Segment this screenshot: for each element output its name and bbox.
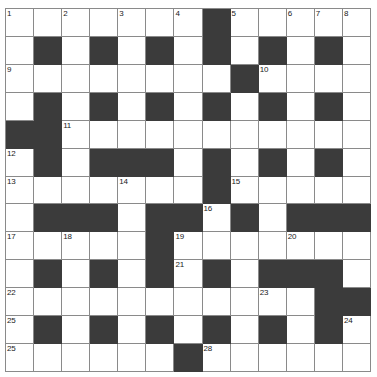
crossword-cell[interactable] — [118, 288, 146, 316]
crossword-cell[interactable] — [174, 149, 202, 177]
crossword-cell[interactable]: 2 — [62, 9, 90, 37]
crossword-cell[interactable] — [62, 316, 90, 344]
crossword-cell[interactable] — [231, 232, 259, 260]
crossword-cell[interactable] — [6, 204, 34, 232]
crossword-cell[interactable] — [203, 288, 231, 316]
crossword-cell[interactable] — [174, 121, 202, 149]
crossword-cell[interactable]: 16 — [203, 204, 231, 232]
crossword-cell[interactable] — [118, 316, 146, 344]
crossword-cell[interactable] — [315, 121, 343, 149]
crossword-cell[interactable] — [118, 204, 146, 232]
crossword-cell[interactable]: 25 — [6, 344, 34, 372]
crossword-cell[interactable] — [146, 288, 174, 316]
crossword-cell[interactable] — [174, 177, 202, 205]
crossword-cell[interactable] — [118, 232, 146, 260]
crossword-cell[interactable] — [287, 65, 315, 93]
crossword-cell[interactable] — [118, 93, 146, 121]
crossword-cell[interactable] — [174, 37, 202, 65]
crossword-cell[interactable] — [287, 37, 315, 65]
crossword-cell[interactable] — [6, 93, 34, 121]
crossword-cell[interactable]: 24 — [343, 316, 371, 344]
crossword-cell[interactable]: 19 — [174, 232, 202, 260]
crossword-cell[interactable]: 23 — [259, 288, 287, 316]
crossword-cell[interactable] — [343, 121, 371, 149]
crossword-cell[interactable] — [231, 149, 259, 177]
crossword-cell[interactable] — [231, 316, 259, 344]
crossword-cell[interactable] — [174, 65, 202, 93]
crossword-cell[interactable] — [231, 260, 259, 288]
crossword-cell[interactable] — [259, 344, 287, 372]
crossword-cell[interactable] — [6, 37, 34, 65]
crossword-cell[interactable] — [90, 65, 118, 93]
crossword-grid[interactable]: 1234567891011121314151617181920212223252… — [5, 8, 371, 372]
crossword-cell[interactable]: 9 — [6, 65, 34, 93]
crossword-cell[interactable] — [231, 121, 259, 149]
crossword-cell[interactable] — [315, 344, 343, 372]
crossword-cell[interactable] — [287, 149, 315, 177]
crossword-cell[interactable] — [34, 9, 62, 37]
crossword-cell[interactable] — [259, 232, 287, 260]
crossword-cell[interactable] — [315, 177, 343, 205]
crossword-cell[interactable]: 18 — [62, 232, 90, 260]
crossword-cell[interactable]: 8 — [343, 9, 371, 37]
crossword-cell[interactable] — [259, 121, 287, 149]
crossword-cell[interactable] — [90, 121, 118, 149]
crossword-cell[interactable] — [203, 121, 231, 149]
crossword-cell[interactable] — [259, 177, 287, 205]
crossword-cell[interactable] — [174, 316, 202, 344]
crossword-cell[interactable] — [90, 288, 118, 316]
crossword-cell[interactable] — [343, 65, 371, 93]
crossword-cell[interactable]: 4 — [174, 9, 202, 37]
crossword-cell[interactable]: 6 — [287, 9, 315, 37]
crossword-cell[interactable] — [34, 344, 62, 372]
crossword-cell[interactable] — [259, 204, 287, 232]
crossword-cell[interactable] — [287, 316, 315, 344]
crossword-cell[interactable] — [287, 121, 315, 149]
crossword-cell[interactable] — [146, 344, 174, 372]
crossword-cell[interactable] — [6, 260, 34, 288]
crossword-cell[interactable] — [62, 149, 90, 177]
crossword-cell[interactable] — [174, 93, 202, 121]
crossword-cell[interactable] — [231, 288, 259, 316]
crossword-cell[interactable] — [259, 9, 287, 37]
crossword-cell[interactable]: 10 — [259, 65, 287, 93]
crossword-cell[interactable] — [34, 288, 62, 316]
crossword-cell[interactable] — [118, 260, 146, 288]
crossword-cell[interactable] — [34, 65, 62, 93]
crossword-cell[interactable] — [62, 37, 90, 65]
crossword-cell[interactable]: 20 — [287, 232, 315, 260]
crossword-cell[interactable] — [90, 177, 118, 205]
crossword-cell[interactable] — [34, 232, 62, 260]
crossword-cell[interactable] — [343, 149, 371, 177]
crossword-cell[interactable] — [90, 232, 118, 260]
crossword-cell[interactable] — [62, 93, 90, 121]
crossword-cell[interactable] — [146, 65, 174, 93]
crossword-cell[interactable] — [343, 344, 371, 372]
crossword-cell[interactable] — [34, 177, 62, 205]
crossword-cell[interactable] — [343, 177, 371, 205]
crossword-cell[interactable] — [146, 9, 174, 37]
crossword-cell[interactable] — [343, 37, 371, 65]
crossword-cell[interactable]: 13 — [6, 177, 34, 205]
crossword-cell[interactable]: 15 — [231, 177, 259, 205]
crossword-cell[interactable] — [343, 93, 371, 121]
crossword-cell[interactable] — [118, 121, 146, 149]
crossword-cell[interactable] — [287, 93, 315, 121]
crossword-cell[interactable]: 21 — [174, 260, 202, 288]
crossword-cell[interactable]: 22 — [6, 288, 34, 316]
crossword-cell[interactable]: 3 — [118, 9, 146, 37]
crossword-cell[interactable]: 25 — [6, 316, 34, 344]
crossword-cell[interactable] — [231, 93, 259, 121]
crossword-cell[interactable] — [118, 65, 146, 93]
crossword-cell[interactable] — [343, 260, 371, 288]
crossword-cell[interactable]: 28 — [203, 344, 231, 372]
crossword-cell[interactable]: 12 — [6, 149, 34, 177]
crossword-cell[interactable]: 17 — [6, 232, 34, 260]
crossword-cell[interactable] — [62, 177, 90, 205]
crossword-cell[interactable] — [146, 121, 174, 149]
crossword-cell[interactable] — [315, 65, 343, 93]
crossword-cell[interactable] — [203, 232, 231, 260]
crossword-cell[interactable] — [146, 177, 174, 205]
crossword-cell[interactable] — [287, 288, 315, 316]
crossword-cell[interactable]: 7 — [315, 9, 343, 37]
